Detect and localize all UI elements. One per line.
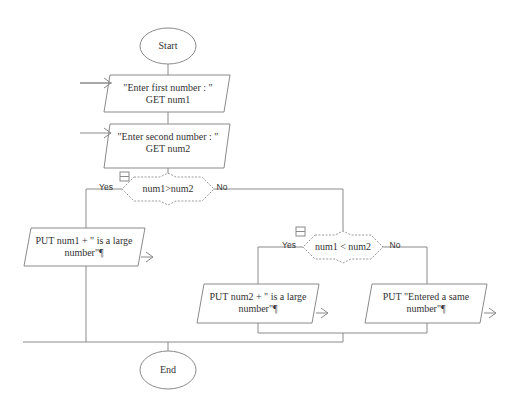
decision2-yes-label: Yes — [282, 240, 296, 250]
output3-line1: PUT "Entered a same — [383, 291, 470, 302]
output-node-num2-large[interactable]: PUT num2 + " is a large number"¶ — [197, 284, 328, 323]
start-label: Start — [159, 40, 178, 51]
decision1-no-label: No — [217, 182, 228, 192]
decision-node-num1-lt-num2[interactable]: num1 < num2 Yes No — [282, 227, 401, 263]
decision2-no-label: No — [390, 240, 401, 250]
output1-line1: PUT num1 + " is a large — [35, 235, 133, 246]
output-arrow-icon — [141, 252, 153, 262]
output-node-same-number[interactable]: PUT "Entered a same number"¶ — [365, 284, 496, 323]
output2-line1: PUT num2 + " is a large — [209, 291, 307, 302]
input-node-second-number[interactable]: "Enter second number : " GET num2 — [80, 124, 230, 168]
end-node[interactable]: End — [140, 351, 196, 389]
start-node[interactable]: Start — [140, 28, 196, 64]
output-node-num1-large[interactable]: PUT num1 + " is a large number"¶ — [24, 228, 153, 266]
input-arrow-icon — [80, 128, 111, 138]
output2-line2: number"¶ — [238, 303, 278, 314]
input1-line1: "Enter first number : " — [123, 82, 212, 93]
output-arrow-icon — [316, 308, 328, 318]
output1-line2: number"¶ — [64, 247, 104, 258]
flowchart-canvas: Start "Enter first number : " GET num1 "… — [0, 0, 515, 406]
output-arrow-icon — [484, 308, 496, 318]
decision1-yes-label: Yes — [99, 182, 113, 192]
input1-line2: GET num1 — [146, 94, 191, 105]
decision1-label: num1>num2 — [142, 183, 193, 194]
input-node-first-number[interactable]: "Enter first number : " GET num1 — [80, 75, 230, 112]
decision2-label: num1 < num2 — [315, 241, 371, 252]
output3-line2: number"¶ — [406, 303, 446, 314]
input2-line2: GET num2 — [146, 143, 191, 154]
end-label: End — [160, 364, 176, 375]
input2-line1: "Enter second number : " — [118, 131, 219, 142]
